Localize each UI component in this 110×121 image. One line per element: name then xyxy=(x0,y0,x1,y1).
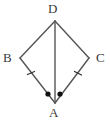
angle-dot-icon-left xyxy=(45,91,50,96)
segment-DB xyxy=(20,21,55,58)
vertex-label-C: C xyxy=(96,51,105,64)
angle-dot-marks xyxy=(45,91,62,96)
kite-diagram-svg xyxy=(0,0,110,121)
vertex-label-B: B xyxy=(3,51,12,64)
angle-dot-icon-right xyxy=(57,91,62,96)
vertex-label-A: A xyxy=(49,106,58,119)
vertex-label-D: D xyxy=(48,2,57,15)
segment-BA xyxy=(20,58,55,103)
geometry-figure-kite: D B C A xyxy=(0,0,110,121)
segment-DC xyxy=(55,21,89,58)
